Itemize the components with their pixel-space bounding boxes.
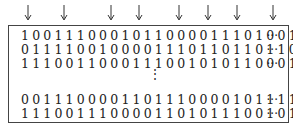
down-arrow-icon [232, 4, 242, 22]
bit-row: 00111000011011100001011110 ··· [21, 93, 286, 107]
bit-matrix-box: 10011100010110000111010011 ··· 011110010… [8, 25, 289, 123]
down-arrow-icon [134, 4, 144, 22]
bit-row: 11100111000011010111001011 ··· [21, 107, 286, 121]
down-arrow-icon [59, 4, 69, 22]
bit-string: 01111001000011101101101100 [21, 42, 293, 57]
continuation-ellipsis: ··· [267, 93, 278, 107]
bit-row: 10011100010110000111010011 ··· [21, 29, 286, 43]
continuation-ellipsis: ··· [267, 43, 278, 57]
down-arrow-icon [268, 4, 278, 22]
down-arrow-icon [23, 4, 33, 22]
continuation-ellipsis: ··· [267, 57, 278, 71]
bit-string: 11100111000011010111001011 [21, 106, 293, 121]
bit-string: 10011100010110000111010011 [21, 28, 293, 43]
continuation-ellipsis: ··· [267, 29, 278, 43]
continuation-ellipsis: ··· [267, 107, 278, 121]
vertical-ellipsis: ⋮ [149, 72, 155, 77]
bit-row: 01111001000011101101101100 ··· [21, 43, 286, 57]
down-arrow-icon [203, 4, 213, 22]
bit-string: 00111000011011100001011110 [21, 92, 293, 107]
down-arrow-icon [174, 4, 184, 22]
down-arrow-icon [106, 4, 116, 22]
